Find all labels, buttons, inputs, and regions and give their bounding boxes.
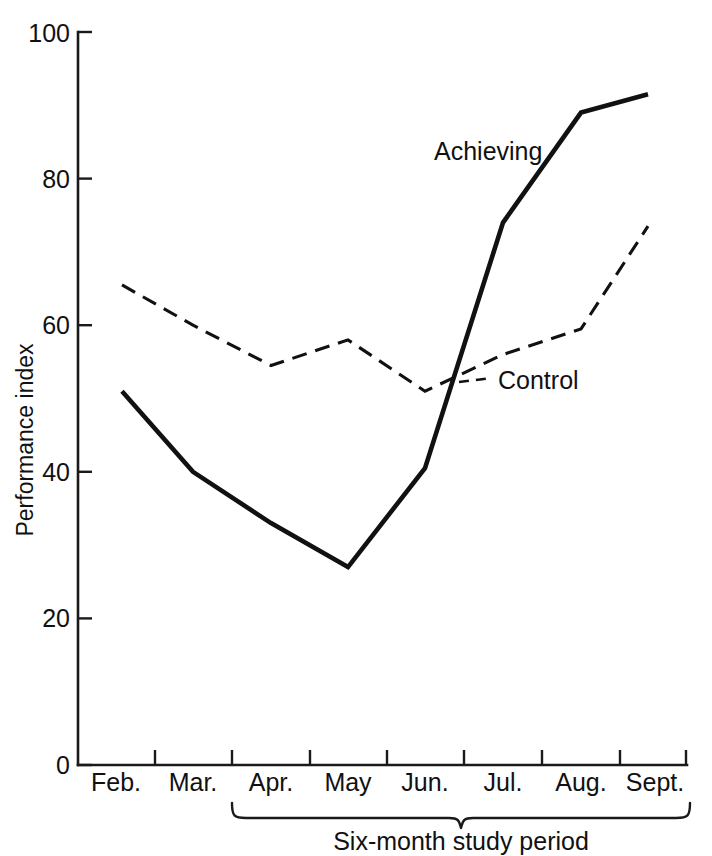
- y-axis-title: Performance index: [12, 343, 38, 537]
- y-tick-label-80: 80: [42, 165, 70, 193]
- y-tick-label-0: 0: [56, 751, 70, 779]
- x-tick-label-mar: Mar.: [169, 768, 218, 796]
- x-tick-label-jul: Jul.: [484, 768, 523, 796]
- x-tick-label-feb: Feb.: [91, 768, 141, 796]
- y-tick-label-40: 40: [42, 458, 70, 486]
- y-tick-label-20: 20: [42, 604, 70, 632]
- six-month-brace: [232, 803, 690, 828]
- x-axis-tick-labels: Feb. Mar. Apr. May Jun. Jul. Aug. Sept.: [91, 768, 684, 796]
- control-leader-line: [459, 378, 492, 382]
- line-chart: 100 80 60 40 20 0 Performance index Feb.…: [0, 0, 712, 856]
- x-tick-label-jun: Jun.: [401, 768, 448, 796]
- x-axis-ticks: [155, 750, 686, 765]
- y-tick-label-60: 60: [42, 311, 70, 339]
- x-axis-brace-label: Six-month study period: [333, 827, 589, 855]
- series-line-achieving: [122, 94, 648, 567]
- series-label-achieving: Achieving: [434, 137, 542, 165]
- y-tick-label-100: 100: [28, 19, 70, 47]
- series-label-control: Control: [498, 366, 579, 394]
- x-tick-label-apr: Apr.: [249, 768, 293, 796]
- x-tick-label-sept: Sept.: [626, 768, 684, 796]
- y-axis-ticks: [78, 32, 92, 765]
- x-tick-label-may: May: [324, 768, 372, 796]
- chart-figure: 100 80 60 40 20 0 Performance index Feb.…: [0, 0, 712, 856]
- x-tick-label-aug: Aug.: [555, 768, 606, 796]
